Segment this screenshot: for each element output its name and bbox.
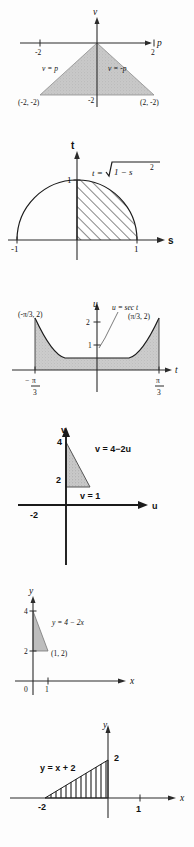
panel-1-triangle-pv: p v -2 2 -2 v = p v = -p (-2, -2) (2, -2… [0, 0, 194, 140]
axis-label-t: t [71, 140, 75, 151]
axis-label-u: u [93, 300, 98, 309]
point-label-left: (-2, -2) [18, 98, 40, 107]
axis-label-s: s [168, 235, 174, 246]
tick-x-pos-denominator: 3 [157, 388, 161, 397]
tick-label-x-neg: -1 [11, 244, 19, 254]
tick-label-y-pos: 1 [67, 175, 72, 185]
tick-label-x-pos: 1 [136, 804, 141, 814]
panel-6-line-xy: x y -2 1 2 y = x + 2 [0, 713, 194, 847]
axis-label-v: v [61, 425, 66, 435]
tick-label-y-mid: 1 [88, 341, 92, 350]
figure-sheet: p v -2 2 -2 v = p v = -p (-2, -2) (2, -2… [0, 0, 194, 847]
axis-label-v: v [93, 7, 98, 17]
tick-label-x-pos: 1 [134, 244, 139, 254]
region-triangle [33, 611, 48, 651]
point-label-left: (-π/3, 2) [18, 310, 43, 319]
tick-label-x-pos: 2 [151, 48, 155, 57]
tick-label-x-neg: -2 [35, 48, 41, 57]
panel-4-triangle-uv: u v 4 2 -2 v = 4−2u v = 1 [0, 425, 194, 573]
tick-label-x-pos: 1 [45, 685, 49, 694]
tick-label-y-top: 4 [24, 607, 28, 616]
tick-label-y-mid: 2 [56, 475, 61, 485]
point-label-corner: (1, 2) [51, 649, 68, 658]
tick-label-y-mid: 2 [24, 647, 28, 656]
axis-label-u: u [152, 501, 158, 511]
tick-x-neg-denominator: 3 [33, 388, 37, 397]
axis-label-y: y [102, 720, 108, 730]
curve-label-lhs: t = [92, 168, 103, 178]
tick-label-x-neg: -2 [38, 802, 46, 812]
point-label-right: (2, -2) [140, 98, 159, 107]
curve-label-left: v = p [42, 64, 58, 73]
axis-label-p: p [156, 38, 162, 48]
tick-label-x-neg: -2 [30, 510, 38, 520]
axis-label-y: y [28, 586, 34, 596]
axis-label-x: x [129, 676, 135, 686]
panel-5-line-xy: x y 4 2 0 1 y = 4 − 2x (1, 2) [0, 573, 194, 713]
curve-label-line: y = 4 − 2x [51, 618, 84, 627]
panel-3-secant-tu: t u 2 1 u = sec t (-π/3, 2) (π/3, 2) − π… [0, 300, 194, 425]
curve-label-hypotenuse: v = 4−2u [95, 444, 131, 454]
curve-label-secant: u = sec t [112, 303, 139, 312]
curve-label-exponent: 2 [150, 163, 154, 172]
tick-label-y-top: 4 [57, 437, 62, 447]
region-quarter-disc [77, 180, 137, 240]
tick-fraction-x-neg: − π 3 [25, 376, 40, 397]
curve-label-sqrt: t = 1 − s 2 [92, 162, 160, 178]
point-label-right: (π/3, 2) [128, 312, 151, 321]
tick-label-y-pos: 2 [86, 318, 90, 327]
tick-x-neg-sign: − [25, 376, 29, 385]
axis-label-x: x [179, 793, 185, 803]
tick-label-y-pos: 2 [114, 753, 119, 763]
tick-x-pos-numerator: π [156, 376, 160, 385]
panel-2-semicircle-st: s t -1 1 1 t = 1 − s 2 [0, 140, 194, 300]
tick-label-y-neg: -2 [88, 96, 94, 105]
tick-fraction-x-pos: π 3 [155, 376, 164, 397]
tick-label-origin: 0 [24, 685, 28, 694]
curve-label-right: v = -p [108, 64, 127, 73]
curve-label-line: y = x + 2 [40, 763, 76, 773]
curve-label-radicand: 1 − s [114, 167, 133, 177]
axis-label-t: t [175, 365, 178, 375]
region-triangle [66, 442, 90, 487]
tick-x-neg-numerator: π [32, 376, 36, 385]
curve-label-base: v = 1 [80, 491, 100, 501]
